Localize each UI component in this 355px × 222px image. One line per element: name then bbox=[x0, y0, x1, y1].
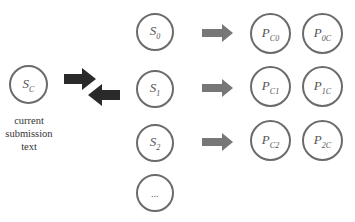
right-arrow-icon bbox=[202, 79, 234, 97]
current-submission-node: SC bbox=[9, 65, 48, 104]
node-label: SC bbox=[23, 76, 35, 94]
right-arrow-icon bbox=[202, 24, 234, 42]
current-submission-caption: current submission text bbox=[0, 114, 58, 153]
submission-node-1: S1 bbox=[136, 70, 174, 108]
submission-node-0: S0 bbox=[136, 13, 174, 51]
compare-arrows-icon bbox=[62, 68, 122, 108]
pair-node-2c: P2C bbox=[302, 120, 343, 161]
pair-node-c2: PC2 bbox=[250, 120, 291, 161]
pair-node-c0: PC0 bbox=[250, 13, 291, 54]
pair-node-0c: P0C bbox=[302, 13, 343, 54]
right-arrow-icon bbox=[202, 133, 234, 151]
pair-node-1c: P1C bbox=[302, 66, 343, 107]
submission-node-2: S2 bbox=[136, 124, 174, 162]
caption-line: submission bbox=[0, 127, 58, 140]
submission-node-more: ... bbox=[136, 174, 174, 212]
pair-node-c1: PC1 bbox=[250, 66, 291, 107]
caption-line: current bbox=[0, 114, 58, 127]
caption-line: text bbox=[0, 140, 58, 153]
